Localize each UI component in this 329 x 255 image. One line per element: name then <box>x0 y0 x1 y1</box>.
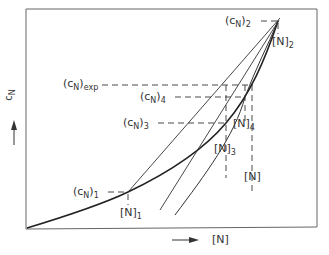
chord-3-2 <box>160 20 279 210</box>
x-axis-label: [N] <box>212 234 229 245</box>
label-cn4: (cN)4 <box>140 91 166 105</box>
label-cn3: (cN)3 <box>123 117 149 131</box>
chord-1-2 <box>128 18 280 192</box>
y-axis-label: cN <box>3 89 17 100</box>
x-arrow-head-icon <box>189 237 199 243</box>
label-n1: [N]1 <box>120 207 142 221</box>
label-cn1: (cN)1 <box>73 186 99 200</box>
label-n2: [N]2 <box>272 36 294 50</box>
label-cn-exp: (cN)exp <box>63 78 98 92</box>
label-n: [N] <box>244 171 261 182</box>
label-cn2: (cN)2 <box>225 15 251 29</box>
y-arrow-head-icon <box>11 120 17 130</box>
intermediate-curve <box>175 21 278 215</box>
label-n4: [N]4 <box>233 118 255 132</box>
label-n3: [N]3 <box>214 143 236 157</box>
